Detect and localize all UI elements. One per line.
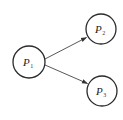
process-graph: P1 P2 P3 — [0, 0, 123, 120]
node-p3: P3 — [87, 76, 117, 106]
node-p1: P1 — [13, 46, 45, 78]
edge-p1-p3 — [45, 65, 88, 84]
edge-p1-p2 — [45, 38, 87, 60]
node-p2: P2 — [86, 14, 116, 44]
